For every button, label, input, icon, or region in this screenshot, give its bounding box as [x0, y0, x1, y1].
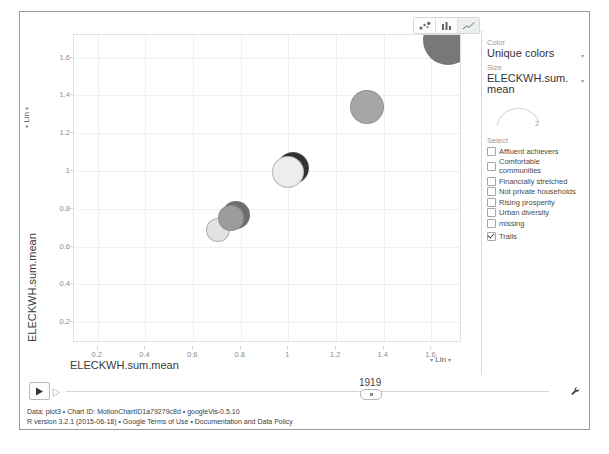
play-icon [35, 387, 44, 396]
category-label-0: Affluent achievers [499, 147, 558, 156]
gridline-vertical [431, 35, 432, 341]
y-tick-mark [70, 283, 73, 284]
trails-checkbox[interactable]: Trails [487, 232, 584, 241]
gridline-horizontal [74, 171, 460, 172]
color-label: Color [487, 38, 584, 47]
size-slider[interactable]: 2 [487, 98, 584, 132]
category-label-1: Comfortable communities [499, 157, 584, 175]
line-chart-icon [462, 21, 476, 31]
y-tick-mark [70, 57, 73, 58]
x-tick-label-1: 0.4 [139, 350, 149, 359]
data-bubble-5[interactable] [350, 90, 384, 124]
category-checkbox-0[interactable]: Affluent achievers [487, 147, 584, 156]
chevron-down-icon-size: ▾ [581, 76, 584, 87]
x-tick-mark [97, 346, 98, 349]
trails-label: Trails [499, 232, 517, 241]
category-label-3: Not private households [499, 187, 576, 196]
timeline-track[interactable] [66, 391, 549, 392]
wrench-icon [570, 386, 581, 397]
category-checkbox-3[interactable]: Not private households [487, 187, 584, 196]
bubble-chart-button[interactable] [414, 18, 436, 33]
x-tick-mark [192, 346, 193, 349]
line-chart-button[interactable] [458, 18, 479, 33]
x-tick-mark [144, 346, 145, 349]
size-select[interactable]: ELECKWH.sum.mean ▾ [487, 73, 584, 95]
x-axis-ticks: 0.20.40.60.811.21.41.6 [73, 346, 461, 360]
category-label-5: Urban diversity [499, 208, 549, 217]
gridline-horizontal [74, 95, 460, 96]
x-tick-label-4: 1 [285, 350, 289, 359]
chevron-down-icon: ▾ [24, 125, 30, 128]
control-panel: Color Unique colors ▾ Size ELECKWH.sum.m… [481, 30, 589, 375]
y-tick-mark [70, 170, 73, 171]
category-checkbox-5[interactable]: Urban diversity [487, 208, 584, 217]
category-label-6: missing [499, 219, 524, 228]
gridline-horizontal [74, 58, 460, 59]
y-tick-label-1: 0.4 [60, 279, 70, 288]
size-label: Size [487, 63, 584, 72]
checkbox-icon-trails[interactable] [487, 232, 496, 241]
x-tick-label-0: 0.2 [92, 350, 102, 359]
bar-chart-button[interactable] [436, 18, 458, 33]
category-checkbox-1[interactable]: Comfortable communities [487, 157, 584, 175]
motionchart-widget: ▾ Lin ▾ ELECKWH.sum.mean ELECKWH.sum.mea… [19, 11, 590, 430]
category-checkbox-6[interactable]: missing [487, 219, 584, 228]
category-checkbox-list: Affluent achieversComfortable communitie… [487, 147, 584, 228]
checkbox-icon-4[interactable] [487, 198, 496, 207]
x-tick-mark [383, 346, 384, 349]
x-tick-mark [287, 346, 288, 349]
playback-speed-button[interactable] [52, 384, 63, 402]
gridline-horizontal [74, 209, 460, 210]
x-tick-mark [430, 346, 431, 349]
checkbox-icon-3[interactable] [487, 187, 496, 196]
checkbox-icon-1[interactable] [487, 162, 496, 171]
data-bubble-6[interactable] [423, 34, 461, 65]
color-value: Unique colors [487, 47, 554, 59]
y-axis-ticks: 0.20.40.60.811.21.41.6 [44, 34, 70, 342]
chevron-down-icon-color: ▾ [581, 51, 584, 62]
gridline-horizontal [74, 322, 460, 323]
y-axis-scale-value: Lin [22, 112, 31, 123]
checkbox-icon-0[interactable] [487, 147, 496, 156]
timeline-handle[interactable] [360, 389, 382, 400]
checkbox-icon-5[interactable] [487, 208, 496, 217]
category-checkbox-4[interactable]: Rising prosperity [487, 198, 584, 207]
gridline-vertical [384, 35, 385, 341]
y-tick-mark [70, 94, 73, 95]
y-tick-label-0: 0.2 [60, 317, 70, 326]
data-bubble-4[interactable] [272, 156, 304, 188]
y-axis-title: ELECKWH.sum.mean [26, 233, 38, 342]
gridline-horizontal [74, 133, 460, 134]
y-tick-mark [70, 321, 73, 322]
gridline-horizontal [74, 284, 460, 285]
y-tick-label-3: 0.8 [60, 203, 70, 212]
checkbox-icon-6[interactable] [487, 219, 496, 228]
gridline-vertical [193, 35, 194, 341]
settings-button[interactable] [570, 383, 581, 401]
timeline-controls: 1919 [20, 375, 589, 406]
y-axis-scale-dropdown[interactable]: ▾ Lin ▾ [22, 107, 31, 128]
current-year-label: 1919 [359, 377, 381, 388]
y-tick-mark [70, 246, 73, 247]
checkbox-icon-2[interactable] [487, 177, 496, 186]
plot-canvas[interactable] [73, 34, 461, 342]
gridline-vertical [288, 35, 289, 341]
y-tick-mark [70, 208, 73, 209]
footer-line-1: Data: plot3 • Chart ID: MotionChartID1a7… [27, 407, 582, 417]
select-label: Select [487, 136, 584, 145]
chart-type-toolbar[interactable] [413, 17, 480, 34]
category-checkbox-2[interactable]: Financially stretched [487, 177, 584, 186]
gridline-vertical [336, 35, 337, 341]
y-tick-label-7: 1.6 [60, 52, 70, 61]
x-tick-label-2: 0.6 [187, 350, 197, 359]
x-tick-label-6: 1.4 [378, 350, 388, 359]
gridline-vertical [145, 35, 146, 341]
color-select[interactable]: Unique colors ▾ [487, 48, 584, 59]
y-tick-label-6: 1.4 [60, 90, 70, 99]
play-button[interactable] [29, 382, 50, 400]
size-slider-value: 2 [535, 120, 539, 127]
gridline-horizontal [74, 247, 460, 248]
x-tick-label-3: 0.8 [235, 350, 245, 359]
gridline-vertical [98, 35, 99, 341]
speed-icon [52, 387, 63, 398]
